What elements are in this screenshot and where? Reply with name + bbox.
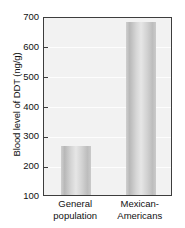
y-axis-tick-mark xyxy=(44,47,48,48)
x-axis-category-label-line: Mexican- xyxy=(95,198,185,210)
y-axis-tick-labels: 100200300400500600700 xyxy=(14,0,39,228)
x-axis-category-label-line: Americans xyxy=(95,210,185,222)
y-axis-tick-label: 300 xyxy=(14,131,39,141)
x-axis-category-label: Mexican-Americans xyxy=(95,198,185,221)
y-axis-tick-mark xyxy=(44,77,48,78)
y-axis-tick-label: 600 xyxy=(14,42,39,52)
y-axis-tick-label: 200 xyxy=(14,161,39,171)
y-axis-tick-mark xyxy=(44,137,48,138)
x-axis-category-labels: GeneralpopulationMexican-Americans xyxy=(43,198,172,228)
bar xyxy=(126,22,156,195)
bar xyxy=(61,146,91,195)
y-axis-tick-label: 400 xyxy=(14,102,39,112)
bar-chart: Blood level of DDT (ng/g) 10020030040050… xyxy=(0,0,185,228)
y-axis-tick-label: 500 xyxy=(14,72,39,82)
y-axis-tick-label: 700 xyxy=(14,12,39,22)
y-axis-tick-mark xyxy=(44,107,48,108)
plot-area xyxy=(43,17,172,196)
y-axis-tick-mark xyxy=(44,167,48,168)
